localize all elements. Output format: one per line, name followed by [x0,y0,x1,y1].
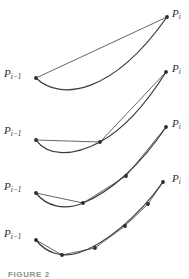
stage-1-start-label: Pi−1 [4,68,22,80]
stage-2-interior-node [98,140,102,144]
stage-4-interior-node [60,253,64,257]
stage-4-end-node [161,180,165,184]
stage-1-group [34,15,169,90]
stage-3-chord [36,127,166,203]
stage-3-interior-node [81,201,85,205]
stage-4-start-node [34,238,38,242]
stage-4-end-label-base: P [172,172,179,184]
stage-3-group [34,125,168,207]
figure-caption: FIGURE 2 [8,270,50,279]
stage-4-start-label-base: P [4,227,11,239]
stage-4-interior-node [146,202,150,206]
stage-3-end-node [164,125,168,129]
stage-3-end-label-subscript: i [179,122,181,131]
stage-3-end-label: Pi [172,118,181,130]
stage-3-interior-node [124,174,128,178]
stage-3-start-label: Pi−1 [4,181,22,193]
stage-2-end-node [164,70,168,74]
stage-2-start-label-subscript: i−1 [11,129,22,138]
stage-1-chord [36,17,167,78]
curve-subdivision-diagram [0,0,189,279]
figure-container: Pi−1 Pi Pi−1 Pi Pi−1 Pi Pi−1 Pi FIGURE 2 [0,0,189,279]
stage-3-end-label-base: P [172,117,179,129]
stage-4-end-label: Pi [172,173,181,185]
stage-2-group [34,70,168,153]
stage-4-group [34,180,165,257]
stage-4-end-label-subscript: i [179,177,181,186]
stage-1-start-label-subscript: i−1 [11,72,22,81]
stage-1-start-label-base: P [4,67,11,79]
stage-2-start-label: Pi−1 [4,125,22,137]
stage-1-end-node [165,15,169,19]
stage-2-start-label-base: P [4,124,11,136]
stage-1-end-label: Pi [172,8,181,20]
stage-1-end-label-base: P [172,7,179,19]
stage-2-chord [36,72,166,142]
stage-3-start-label-base: P [4,180,11,192]
stage-4-start-label: Pi−1 [4,228,22,240]
stage-2-end-label-base: P [172,62,179,74]
stage-3-start-node [34,191,38,195]
stage-4-interior-node [123,224,127,228]
stage-4-interior-node [93,246,97,250]
stage-3-start-label-subscript: i−1 [11,185,22,194]
stage-1-start-node [34,76,38,80]
stage-3-curve [36,127,166,207]
stage-4-start-label-subscript: i−1 [11,232,22,241]
stage-2-end-label-subscript: i [179,67,181,76]
stage-2-end-label: Pi [172,63,181,75]
stage-1-end-label-subscript: i [179,12,181,21]
stage-2-start-node [34,138,38,142]
stage-1-curve [36,17,167,90]
